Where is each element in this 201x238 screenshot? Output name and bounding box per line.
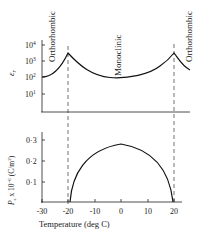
bottom-panel: 0·3 0·2 0·1 -30 -20 -10 0 10 20 Temperat… xyxy=(7,132,182,229)
x-tick-label-10: 10 xyxy=(144,207,152,216)
top-tick-label-1e2: 102 xyxy=(25,72,36,82)
x-tick-label-minus20: -20 xyxy=(63,207,74,216)
top-y-axis-label: εr xyxy=(6,69,17,76)
x-tick-label-0: 0 xyxy=(119,207,123,216)
x-tick-label-minus30: -30 xyxy=(37,207,48,216)
polarization-curve xyxy=(70,144,173,202)
bottom-y-axis-label: Ps x 10−6 (C/m2) xyxy=(7,155,17,206)
x-axis-label: Temperature (deg C) xyxy=(39,219,110,229)
figure: Orthorhombic Monoclinic Orthorhombic 104… xyxy=(0,0,201,238)
bottom-x-ticks xyxy=(42,199,174,202)
top-tick-label-1e3: 103 xyxy=(25,56,36,66)
top-tick-label-1e4: 104 xyxy=(25,40,36,50)
phase-label-right: Orthorhombic xyxy=(184,11,194,62)
phase-label-middle: Monoclinic xyxy=(113,35,123,77)
bottom-tick-label-0.1: 0·1 xyxy=(26,178,37,187)
x-tick-label-minus10: -10 xyxy=(90,207,101,216)
phase-label-left: Orthorhombic xyxy=(47,11,57,62)
top-panel: 104 103 102 101 εr xyxy=(6,40,190,112)
top-tick-label-1e1: 101 xyxy=(25,89,36,99)
top-y-ticks xyxy=(42,45,45,94)
bottom-tick-label-0.3: 0·3 xyxy=(26,136,37,145)
bottom-tick-label-0.2: 0·2 xyxy=(26,157,37,166)
x-tick-label-20: 20 xyxy=(170,207,178,216)
bottom-y-ticks xyxy=(42,140,45,182)
